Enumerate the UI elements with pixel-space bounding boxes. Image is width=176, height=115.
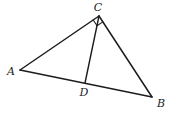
edge-CB [99, 16, 152, 97]
diagram-canvas: A B C D [0, 0, 176, 115]
vertex-label-d: D [79, 86, 89, 99]
triangle-diagram: A B C D [0, 0, 176, 115]
segments-layer [20, 16, 152, 97]
vertex-label-c: C [94, 1, 103, 14]
labels-layer: A B C D [6, 1, 165, 110]
vertex-label-b: B [156, 97, 165, 110]
vertex-label-a: A [6, 65, 15, 78]
edge-AC [20, 16, 99, 70]
